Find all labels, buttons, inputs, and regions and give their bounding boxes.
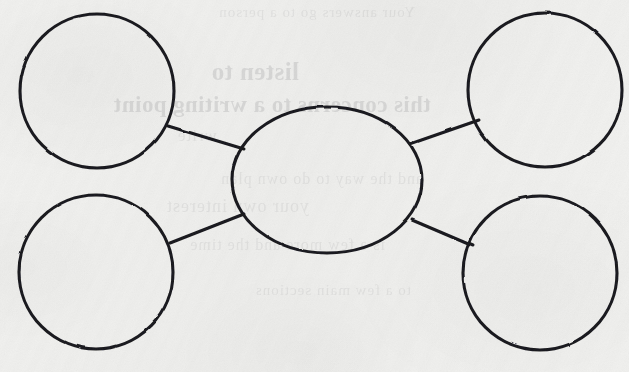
- connector-bottom-right: [412, 220, 473, 246]
- connector-group: [168, 120, 479, 246]
- connector-top-right: [410, 120, 479, 144]
- bubble-bottom-right[interactable]: [463, 196, 617, 350]
- bubble-map-diagram: [0, 0, 629, 372]
- worksheet-page: Your answers go to a personlisten tothis…: [0, 0, 629, 372]
- bubble-top-left[interactable]: [20, 14, 174, 168]
- bubble-top-right[interactable]: [468, 13, 622, 167]
- bubble-group: [19, 13, 622, 350]
- connector-top-left: [168, 126, 244, 149]
- bubble-bottom-left[interactable]: [19, 195, 173, 349]
- connector-bottom-left: [170, 214, 244, 243]
- center-bubble[interactable]: [232, 107, 422, 253]
